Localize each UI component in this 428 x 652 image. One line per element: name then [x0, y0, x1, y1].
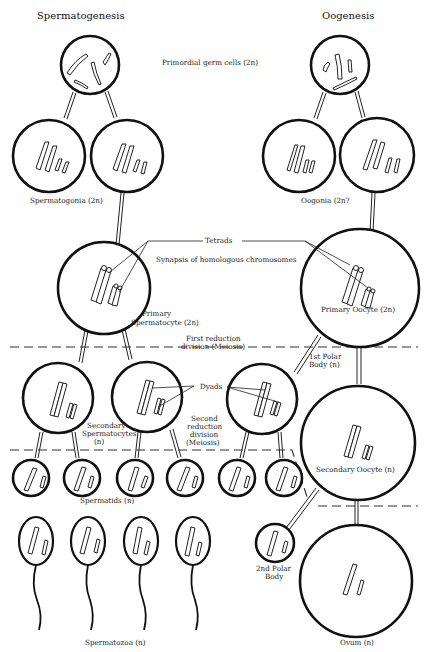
label-spermatogonia: Spermatogonia (2n) — [30, 196, 103, 205]
label-tetrads: Tetrads — [205, 236, 233, 245]
first-polar-body — [227, 364, 297, 434]
second-polar-body — [256, 524, 294, 562]
second-division-line — [10, 450, 308, 500]
label-spermatids: Spermatids (n) — [80, 496, 135, 505]
oogonium-right — [340, 118, 414, 192]
title-spermatogenesis: Spermatogenesis — [37, 10, 125, 21]
label-secondary-oocyte: Secondary Oocyte (n) — [316, 465, 395, 474]
label-spermatozoa: Spermatozoa (n) — [85, 638, 146, 647]
label-secondary-spermatocytes-line3: (n) — [94, 437, 104, 446]
label-primordial-germ-cells: Primordial germ cells (2n) — [162, 58, 258, 67]
label-second-polar-body-line2: Body — [265, 572, 284, 581]
label-dyads: Dyads — [200, 382, 223, 391]
gametogenesis-diagram: Spermatogenesis Oogenesis — [0, 0, 428, 652]
label-primary-spermatocyte-line2: Spermatocyte (2n) — [131, 318, 199, 327]
primary-oocyte — [301, 229, 419, 347]
oogonium-left — [263, 120, 335, 192]
label-ovum: Ovum (n) — [340, 638, 374, 647]
secondary-spermatocyte-left — [23, 363, 93, 433]
label-first-reduction-line2: division (Meiosis) — [181, 342, 245, 351]
label-first-polar-body-line2: Body (n) — [309, 360, 340, 369]
secondary-oocyte — [301, 386, 415, 500]
primordial-germ-cell-sperm — [61, 36, 119, 94]
label-primary-spermatocyte-line1: Primary — [142, 309, 172, 318]
label-synapsis: Synapsis of homologous chromosomes — [156, 255, 297, 264]
spermatids — [13, 460, 203, 496]
label-oogonia: Oogonia (2n? — [301, 196, 350, 205]
ovum — [300, 525, 412, 637]
primordial-germ-cell-egg — [311, 36, 369, 94]
label-primary-oocyte: Primary Oocyte (2n) — [321, 305, 395, 314]
label-second-reduction-line4: (Meiosis) — [186, 438, 220, 447]
label-secondary-spermatocytes-line2: Spermatocytes — [82, 429, 137, 438]
spermatozoa — [19, 517, 210, 630]
spermatogonium-right — [91, 120, 163, 192]
spermatogonium-left — [13, 120, 85, 192]
first-polar-body-daughters — [219, 460, 302, 496]
title-oogenesis: Oogenesis — [322, 10, 374, 21]
